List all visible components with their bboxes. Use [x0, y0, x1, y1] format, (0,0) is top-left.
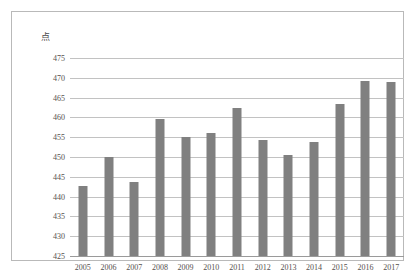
- y-axis-tick-label: 475: [53, 54, 65, 63]
- bar: [155, 119, 164, 256]
- y-axis-tick-label: 425: [53, 252, 65, 261]
- bar-slot: [198, 58, 224, 256]
- bar: [310, 142, 319, 256]
- bar-slot: [173, 58, 199, 256]
- bar-slot: [121, 58, 147, 256]
- y-axis-tick-label: 460: [53, 113, 65, 122]
- x-axis-tick-label: 2007: [126, 263, 142, 272]
- y-axis-tick-label: 435: [53, 212, 65, 221]
- plot-area: 425430435440445450455460465470475 200520…: [70, 58, 404, 256]
- bar-slot: [96, 58, 122, 256]
- y-axis-tick-label: 465: [53, 93, 65, 102]
- x-axis-tick-label: 2016: [357, 263, 373, 272]
- y-axis-tick-label: 450: [53, 153, 65, 162]
- x-axis-tick-label: 2010: [203, 263, 219, 272]
- y-axis-tick-label: 455: [53, 133, 65, 142]
- bar: [78, 186, 87, 256]
- bar-slot: [378, 58, 404, 256]
- bar-slot: [250, 58, 276, 256]
- y-axis-tick-label: 470: [53, 73, 65, 82]
- x-axis-tick-label: 2006: [101, 263, 117, 272]
- bar: [335, 104, 344, 256]
- figure-frame: 点 425430435440445450455460465470475 2005…: [11, 11, 404, 261]
- bar-slot: [327, 58, 353, 256]
- bar: [258, 140, 267, 256]
- x-axis-tick-label: 2013: [280, 263, 296, 272]
- y-axis-tick-label: 445: [53, 172, 65, 181]
- x-axis-tick-label: 2012: [255, 263, 271, 272]
- bar-slot: [353, 58, 379, 256]
- x-axis-tick-label: 2005: [75, 263, 91, 272]
- gridline: [70, 256, 404, 257]
- bar: [387, 82, 396, 256]
- bar: [232, 108, 241, 257]
- bar-slot: [301, 58, 327, 256]
- bar-series: [70, 58, 404, 256]
- bar: [181, 137, 190, 256]
- y-axis-tick-label: 430: [53, 232, 65, 241]
- x-axis-tick-label: 2009: [178, 263, 194, 272]
- bar: [361, 81, 370, 256]
- bar-slot: [224, 58, 250, 256]
- bar: [207, 133, 216, 256]
- y-axis-tick-label: 440: [53, 192, 65, 201]
- bar-slot: [70, 58, 96, 256]
- x-axis-tick-label: 2011: [229, 263, 245, 272]
- x-axis-tick-label: 2008: [152, 263, 168, 272]
- x-axis-tick-label: 2014: [306, 263, 322, 272]
- y-axis-unit-label: 点: [41, 32, 50, 43]
- bar: [284, 155, 293, 256]
- bar-slot: [276, 58, 302, 256]
- bar-slot: [147, 58, 173, 256]
- bar: [104, 157, 113, 256]
- bar: [130, 182, 139, 256]
- x-axis-tick-label: 2017: [383, 263, 399, 272]
- x-axis-tick-label: 2015: [332, 263, 348, 272]
- chart-figure: 点 425430435440445450455460465470475 2005…: [0, 0, 417, 278]
